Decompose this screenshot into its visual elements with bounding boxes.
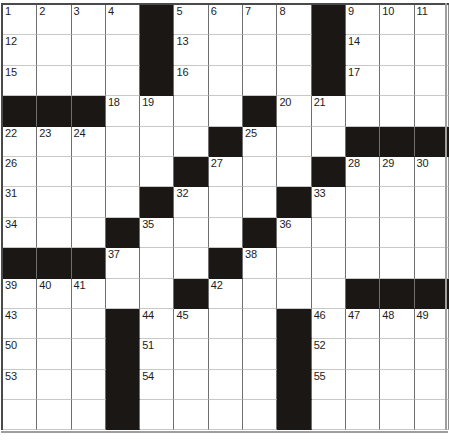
letter-cell[interactable] (380, 400, 414, 430)
letter-cell[interactable] (174, 370, 208, 400)
numbered-cell[interactable]: 49 (415, 309, 449, 339)
letter-cell[interactable] (243, 339, 277, 369)
letter-cell[interactable] (37, 309, 71, 339)
numbered-cell[interactable]: 52 (312, 339, 346, 369)
numbered-cell[interactable]: 7 (243, 5, 277, 35)
numbered-cell[interactable]: 6 (209, 5, 243, 35)
letter-cell[interactable] (346, 370, 380, 400)
letter-cell[interactable] (277, 279, 311, 309)
letter-cell[interactable] (380, 339, 414, 369)
numbered-cell[interactable]: 21 (312, 96, 346, 126)
letter-cell[interactable] (37, 157, 71, 187)
letter-cell[interactable] (72, 339, 106, 369)
letter-cell[interactable] (106, 157, 140, 187)
numbered-cell[interactable]: 41 (72, 279, 106, 309)
letter-cell[interactable] (415, 218, 449, 248)
letter-cell[interactable] (346, 339, 380, 369)
letter-cell[interactable] (209, 370, 243, 400)
letter-cell[interactable] (37, 400, 71, 430)
numbered-cell[interactable]: 32 (174, 187, 208, 217)
letter-cell[interactable] (106, 35, 140, 65)
numbered-cell[interactable]: 24 (72, 127, 106, 157)
letter-cell[interactable] (140, 127, 174, 157)
letter-cell[interactable] (209, 35, 243, 65)
letter-cell[interactable] (243, 400, 277, 430)
letter-cell[interactable] (277, 35, 311, 65)
numbered-cell[interactable]: 19 (140, 96, 174, 126)
numbered-cell[interactable]: 38 (243, 248, 277, 278)
letter-cell[interactable] (209, 339, 243, 369)
numbered-cell[interactable]: 37 (106, 248, 140, 278)
numbered-cell[interactable]: 55 (312, 370, 346, 400)
letter-cell[interactable] (380, 66, 414, 96)
letter-cell[interactable] (72, 218, 106, 248)
numbered-cell[interactable]: 45 (174, 309, 208, 339)
letter-cell[interactable] (312, 279, 346, 309)
numbered-cell[interactable]: 17 (346, 66, 380, 96)
numbered-cell[interactable]: 35 (140, 218, 174, 248)
letter-cell[interactable] (37, 66, 71, 96)
letter-cell[interactable] (243, 309, 277, 339)
letter-cell[interactable] (140, 248, 174, 278)
numbered-cell[interactable]: 8 (277, 5, 311, 35)
numbered-cell[interactable]: 54 (140, 370, 174, 400)
letter-cell[interactable] (37, 339, 71, 369)
numbered-cell[interactable]: 44 (140, 309, 174, 339)
letter-cell[interactable] (243, 66, 277, 96)
numbered-cell[interactable]: 50 (3, 339, 37, 369)
letter-cell[interactable] (72, 370, 106, 400)
numbered-cell[interactable]: 18 (106, 96, 140, 126)
numbered-cell[interactable]: 2 (37, 5, 71, 35)
numbered-cell[interactable]: 36 (277, 218, 311, 248)
numbered-cell[interactable]: 22 (3, 127, 37, 157)
letter-cell[interactable] (312, 127, 346, 157)
numbered-cell[interactable]: 14 (346, 35, 380, 65)
numbered-cell[interactable]: 48 (380, 309, 414, 339)
letter-cell[interactable] (380, 248, 414, 278)
numbered-cell[interactable]: 34 (3, 218, 37, 248)
numbered-cell[interactable]: 23 (37, 127, 71, 157)
numbered-cell[interactable]: 5 (174, 5, 208, 35)
letter-cell[interactable] (415, 187, 449, 217)
letter-cell[interactable] (380, 218, 414, 248)
letter-cell[interactable] (380, 96, 414, 126)
numbered-cell[interactable]: 31 (3, 187, 37, 217)
letter-cell[interactable] (380, 187, 414, 217)
letter-cell[interactable] (415, 370, 449, 400)
numbered-cell[interactable]: 10 (380, 5, 414, 35)
letter-cell[interactable] (37, 35, 71, 65)
letter-cell[interactable] (72, 35, 106, 65)
letter-cell[interactable] (415, 400, 449, 430)
letter-cell[interactable] (243, 370, 277, 400)
numbered-cell[interactable]: 25 (243, 127, 277, 157)
letter-cell[interactable] (312, 248, 346, 278)
numbered-cell[interactable]: 40 (37, 279, 71, 309)
letter-cell[interactable] (415, 66, 449, 96)
letter-cell[interactable] (312, 400, 346, 430)
numbered-cell[interactable]: 3 (72, 5, 106, 35)
letter-cell[interactable] (209, 66, 243, 96)
letter-cell[interactable] (209, 400, 243, 430)
letter-cell[interactable] (140, 157, 174, 187)
letter-cell[interactable] (3, 400, 37, 430)
letter-cell[interactable] (243, 187, 277, 217)
letter-cell[interactable] (72, 309, 106, 339)
letter-cell[interactable] (415, 339, 449, 369)
letter-cell[interactable] (277, 157, 311, 187)
letter-cell[interactable] (312, 218, 346, 248)
numbered-cell[interactable]: 13 (174, 35, 208, 65)
letter-cell[interactable] (174, 127, 208, 157)
letter-cell[interactable] (243, 35, 277, 65)
numbered-cell[interactable]: 1 (3, 5, 37, 35)
letter-cell[interactable] (415, 96, 449, 126)
letter-cell[interactable] (346, 400, 380, 430)
letter-cell[interactable] (174, 339, 208, 369)
letter-cell[interactable] (106, 127, 140, 157)
letter-cell[interactable] (106, 187, 140, 217)
letter-cell[interactable] (106, 279, 140, 309)
numbered-cell[interactable]: 51 (140, 339, 174, 369)
numbered-cell[interactable]: 28 (346, 157, 380, 187)
letter-cell[interactable] (209, 96, 243, 126)
numbered-cell[interactable]: 26 (3, 157, 37, 187)
numbered-cell[interactable]: 43 (3, 309, 37, 339)
